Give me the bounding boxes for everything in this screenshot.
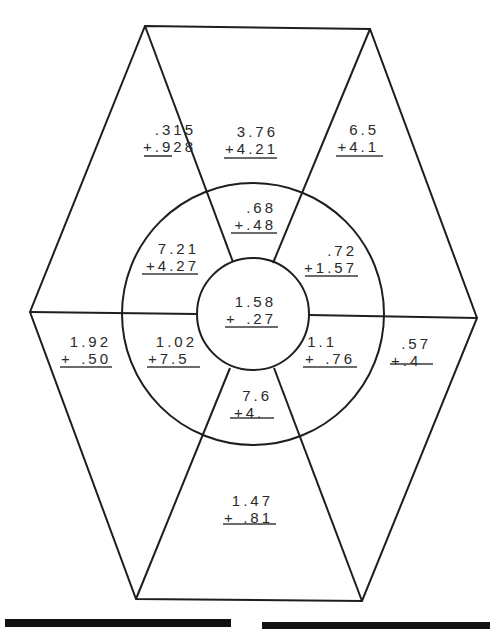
problem-outer-right: .57 +.4 xyxy=(390,335,433,369)
problem-top-number: 1.47 xyxy=(232,492,273,509)
problem-middle-right: 1.1 + .76 xyxy=(303,333,357,367)
problem-bottom-number: +4.1 xyxy=(337,138,379,155)
problem-bottom-plus: + xyxy=(226,310,238,327)
problem-bottom-number: .27 xyxy=(246,310,276,327)
problem-middle-top: .68 +.48 xyxy=(231,199,277,233)
problem-outer-top: 3.76 +4.21 xyxy=(224,123,278,158)
problem-top-number: .68 xyxy=(246,199,276,216)
divider-left xyxy=(30,312,197,314)
divider-bottom-left xyxy=(136,368,230,599)
problem-top-number: 7.6 xyxy=(242,387,272,404)
problem-outer-top-left: .315 +.928 xyxy=(143,121,196,156)
problem-bottom-number: +7.5 xyxy=(148,350,190,367)
problem-bottom-number: .76 xyxy=(325,350,355,367)
problem-outer-left: 1.92 + .50 xyxy=(60,333,112,367)
problem-bottom-number: .50 xyxy=(81,350,111,367)
worksheet-figure: .315 +.928 3.76 +4.21 6.5 +4.1 .68 +.48 … xyxy=(0,0,501,629)
problem-middle-left: 1.02 +7.5 xyxy=(147,333,200,367)
problem-middle-top-right: .72 +1.57 xyxy=(304,242,358,276)
problem-bottom-number: +1.57 xyxy=(304,259,357,276)
bottom-bar-left xyxy=(5,619,231,627)
problem-top-number: 1.1 xyxy=(307,333,337,350)
bottom-bar-right xyxy=(262,622,490,629)
problem-middle-top-left: 7.21 +4.27 xyxy=(142,240,199,274)
problem-bottom-plus: + xyxy=(61,350,73,367)
problem-outer-bottom: 1.47 + .81 xyxy=(223,492,276,526)
problem-top-number: 1.02 xyxy=(156,333,197,350)
problem-bottom-plus: + xyxy=(305,350,317,367)
problem-center: 1.58 + .27 xyxy=(225,293,278,327)
problem-top-number: 7.21 xyxy=(158,240,199,257)
problem-bottom-number: +.928 xyxy=(143,138,196,155)
problem-top-number: .315 xyxy=(155,121,196,138)
problem-bottom-number: +4.21 xyxy=(225,140,278,157)
problem-top-number: 1.58 xyxy=(235,293,276,310)
problem-top-number: .57 xyxy=(401,335,431,352)
problem-middle-bottom: 7.6 +4. xyxy=(230,387,274,421)
problem-outer-top-right: 6.5 +4.1 xyxy=(336,121,383,156)
problem-top-number: 3.76 xyxy=(237,123,278,140)
problem-bottom-number: +4.27 xyxy=(146,257,199,274)
divider-right xyxy=(309,315,477,318)
problem-top-number: 1.92 xyxy=(70,333,111,350)
problem-top-number: 6.5 xyxy=(349,121,379,138)
problem-top-number: .72 xyxy=(327,242,357,259)
problem-bottom-number: +.4 xyxy=(391,352,421,369)
problem-bottom-number: +.48 xyxy=(234,216,276,233)
